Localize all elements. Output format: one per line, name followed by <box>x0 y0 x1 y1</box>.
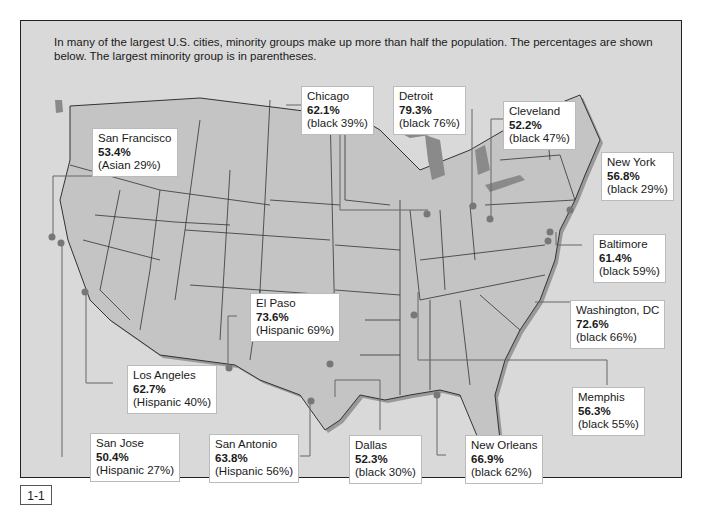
city-group: (black 62%) <box>471 466 537 480</box>
callout-san-jose: San Jose 50.4% (Hispanic 27%) <box>90 433 180 482</box>
city-name: Cleveland <box>509 105 570 119</box>
callout-cleveland: Cleveland 52.2% (black 47%) <box>503 101 576 150</box>
city-percent: 66.9% <box>471 453 537 467</box>
dot-el-paso <box>226 365 233 372</box>
city-percent: 53.4% <box>98 146 172 160</box>
city-percent: 56.8% <box>607 170 668 184</box>
city-name: Chicago <box>307 90 368 104</box>
city-name: Detroit <box>399 90 460 104</box>
callout-memphis: Memphis 56.3% (black 55%) <box>572 387 645 436</box>
dot-cleveland <box>487 216 494 223</box>
city-group: (black 30%) <box>355 466 416 480</box>
city-group: (black 76%) <box>399 117 460 131</box>
city-percent: 62.7% <box>133 383 211 397</box>
city-percent: 56.3% <box>578 405 639 419</box>
city-name: Washington, DC <box>576 304 659 318</box>
city-percent: 52.3% <box>355 453 416 467</box>
city-percent: 62.1% <box>307 104 368 118</box>
dot-washington-dc <box>545 238 552 245</box>
callout-san-antonio: San Antonio 63.8% (Hispanic 56%) <box>209 434 299 483</box>
city-group: (Hispanic 69%) <box>256 324 334 338</box>
dot-detroit <box>470 203 477 210</box>
dot-san-jose <box>58 240 65 247</box>
city-name: San Jose <box>96 437 174 451</box>
city-name: San Francisco <box>98 132 172 146</box>
callout-new-orleans: New Orleans 66.9% (black 62%) <box>465 435 543 484</box>
city-percent: 63.8% <box>215 452 293 466</box>
city-group: (black 39%) <box>307 117 368 131</box>
city-name: El Paso <box>256 297 334 311</box>
dot-chicago <box>424 211 431 218</box>
dot-new-orleans <box>434 392 441 399</box>
callout-san-francisco: San Francisco 53.4% (Asian 29%) <box>92 128 178 177</box>
city-percent: 61.4% <box>599 252 660 266</box>
city-name: San Antonio <box>215 438 293 452</box>
city-group: (black 59%) <box>599 265 660 279</box>
callout-los-angeles: Los Angeles 62.7% (Hispanic 40%) <box>127 365 217 414</box>
city-name: Dallas <box>355 439 416 453</box>
city-group: (Hispanic 40%) <box>133 396 211 410</box>
callout-dallas: Dallas 52.3% (black 30%) <box>349 435 422 484</box>
callout-washington-dc: Washington, DC 72.6% (black 66%) <box>570 300 665 349</box>
dot-memphis <box>411 312 418 319</box>
figure-label: 1-1 <box>20 485 52 505</box>
city-percent: 50.4% <box>96 451 174 465</box>
city-group: (black 29%) <box>607 183 668 197</box>
intro-text: In many of the largest U.S. cities, mino… <box>54 35 654 63</box>
city-name: Memphis <box>578 391 639 405</box>
dot-san-francisco <box>49 234 56 241</box>
city-group: (black 55%) <box>578 418 639 432</box>
dot-dallas <box>327 361 334 368</box>
dot-new-york <box>567 207 574 214</box>
city-group: (Hispanic 27%) <box>96 464 174 478</box>
city-name: Baltimore <box>599 238 660 252</box>
city-group: (Asian 29%) <box>98 159 172 173</box>
city-group: (black 47%) <box>509 132 570 146</box>
city-group: (black 66%) <box>576 331 659 345</box>
city-name: New York <box>607 156 668 170</box>
dot-baltimore <box>547 229 554 236</box>
callout-baltimore: Baltimore 61.4% (black 59%) <box>593 234 666 283</box>
dot-san-antonio <box>308 398 315 405</box>
city-group: (Hispanic 56%) <box>215 465 293 479</box>
callout-new-york: New York 56.8% (black 29%) <box>601 152 674 201</box>
city-percent: 52.2% <box>509 119 570 133</box>
city-percent: 73.6% <box>256 311 334 325</box>
callout-detroit: Detroit 79.3% (black 76%) <box>393 86 466 135</box>
dot-los-angeles <box>82 289 89 296</box>
callout-chicago: Chicago 62.1% (black 39%) <box>301 86 374 135</box>
city-percent: 72.6% <box>576 318 659 332</box>
city-name: New Orleans <box>471 439 537 453</box>
city-percent: 79.3% <box>399 104 460 118</box>
city-name: Los Angeles <box>133 369 211 383</box>
callout-el-paso: El Paso 73.6% (Hispanic 69%) <box>250 293 340 342</box>
